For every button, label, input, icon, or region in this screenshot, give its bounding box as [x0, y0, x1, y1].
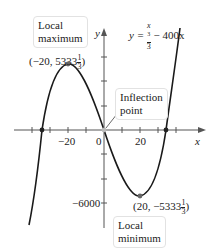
y-tick-label-neg6000: −6000 [72, 197, 100, 209]
local-max-annotation: Local maximum [33, 16, 88, 48]
max-coord-text: (−20, 5333 [29, 55, 77, 67]
root-right-point [164, 128, 169, 133]
local-max-coordinate: (−20, 533313) [29, 54, 85, 71]
y-axis-arrow-icon [101, 28, 107, 36]
local-min-label-line2: minimum [118, 232, 161, 245]
min-coord-text: (20, −5333 [133, 200, 181, 212]
equation-label: y = x33 − 400x [129, 22, 185, 51]
inflection-annotation: Inflection point [115, 88, 168, 120]
equation-lhs: y = [129, 29, 144, 41]
equation-fraction: x33 [147, 22, 151, 51]
eq-den: 3 [147, 43, 151, 51]
x-axis-label: x [195, 135, 200, 147]
inflection-point-marker [102, 128, 107, 133]
inflection-label-line1: Inflection [120, 91, 163, 104]
inflection-label-line2: point [120, 104, 163, 117]
local-min-point [138, 194, 143, 199]
local-min-annotation: Local minimum [113, 216, 166, 248]
max-coord-close: ) [81, 55, 85, 67]
local-max-label-line2: maximum [38, 32, 83, 45]
x-tick-label-neg20: −20 [58, 135, 75, 147]
y-axis-label: y [95, 27, 100, 39]
eq-num: x [147, 22, 151, 30]
equation-rest: − 400x [154, 29, 185, 41]
local-max-label-line1: Local [38, 19, 83, 32]
x-tick-label-20: 20 [135, 135, 146, 147]
local-min-coordinate: (20, −533313) [133, 199, 189, 216]
eq-exp: 3 [147, 31, 150, 37]
root-left-point [40, 128, 45, 133]
local-min-label-line1: Local [118, 219, 161, 232]
min-coord-close: ) [185, 200, 189, 212]
origin-label: 0 [96, 135, 102, 147]
x-axis-arrow-icon [198, 127, 206, 133]
